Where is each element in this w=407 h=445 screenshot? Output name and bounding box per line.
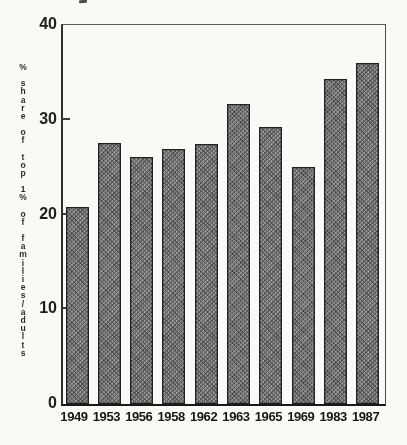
bar-1965 bbox=[259, 127, 282, 404]
y-axis-title-char: f bbox=[22, 136, 25, 144]
bar-1949 bbox=[66, 207, 89, 404]
y-axis-title-char: s bbox=[21, 349, 26, 357]
y-tick-label-30: 30 bbox=[28, 110, 57, 128]
bar-1987 bbox=[356, 63, 379, 404]
x-tick-label-1969: 1969 bbox=[284, 409, 318, 424]
x-tick-label-1956: 1956 bbox=[122, 409, 156, 424]
x-tick-label-1958: 1958 bbox=[154, 409, 188, 424]
x-tick-label-1963: 1963 bbox=[219, 409, 253, 424]
y-axis-title-word-0: % bbox=[19, 63, 27, 71]
y-axis-title-char: % bbox=[19, 63, 27, 71]
figure-canvas: %shareoftop1%offamilies/adults 010203040… bbox=[0, 0, 407, 445]
bar-1956 bbox=[130, 157, 153, 404]
x-tick-label-1949: 1949 bbox=[57, 409, 91, 424]
y-axis-title-word-6: families/adults bbox=[19, 234, 27, 357]
bar-1963 bbox=[227, 104, 250, 404]
x-tick-label-1962: 1962 bbox=[187, 409, 221, 424]
y-axis-title-word-1: share bbox=[20, 79, 25, 120]
x-tick-label-1953: 1953 bbox=[89, 409, 123, 424]
bar-1958 bbox=[162, 149, 185, 404]
plot-area bbox=[61, 24, 386, 406]
bar-1983 bbox=[324, 79, 347, 404]
y-axis-title-word-4: 1% bbox=[19, 185, 27, 201]
y-tick-label-40: 40 bbox=[28, 15, 57, 33]
y-axis-title-word-3: top bbox=[20, 153, 25, 178]
y-axis-title-char: p bbox=[20, 169, 25, 177]
x-tick-label-1987: 1987 bbox=[349, 409, 383, 424]
bar-1953 bbox=[98, 143, 121, 404]
y-tick-label-10: 10 bbox=[28, 299, 57, 317]
y-axis-title-word-5: of bbox=[20, 210, 25, 226]
bar-1962 bbox=[195, 144, 218, 404]
y-axis-title-char: f bbox=[22, 218, 25, 226]
y-axis-title-char: % bbox=[19, 193, 27, 201]
x-axis-labels: 1949195319561958196219631965196919831987 bbox=[0, 409, 407, 425]
y-axis-title-char: e bbox=[21, 112, 26, 120]
scan-artifact bbox=[79, 0, 87, 3]
x-tick-label-1983: 1983 bbox=[316, 409, 350, 424]
x-tick-label-1965: 1965 bbox=[251, 409, 285, 424]
bar-1969 bbox=[292, 167, 315, 404]
y-axis-title-word-2: of bbox=[20, 128, 25, 144]
y-tick-label-20: 20 bbox=[28, 205, 57, 223]
